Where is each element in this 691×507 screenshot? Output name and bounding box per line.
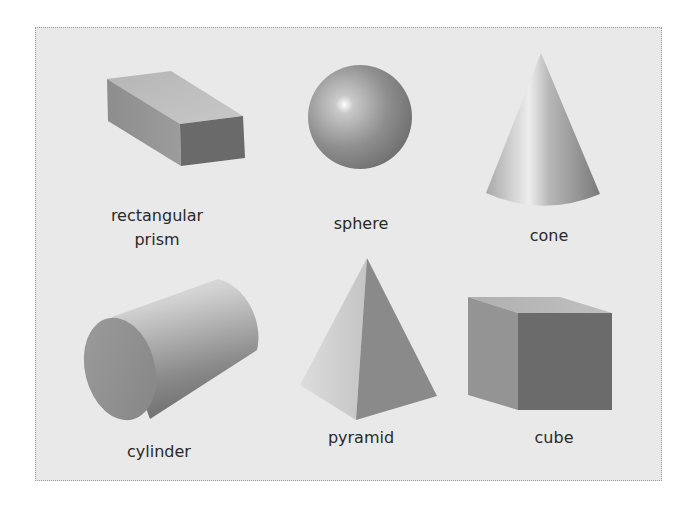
sphere-shape (308, 65, 412, 169)
cube-label: cube (535, 426, 574, 450)
rectangular-prism-shape (107, 71, 245, 166)
pyramid-shape (300, 258, 437, 420)
cone-label: cone (530, 224, 569, 248)
cone-shape (486, 53, 600, 206)
cylinder-shape (73, 279, 258, 428)
sphere-label: sphere (334, 212, 389, 236)
rectangular-prism-label-line2: prism (134, 228, 179, 252)
pyramid-label: pyramid (328, 426, 394, 450)
rectangular-prism-label-line1: rectangular (111, 204, 203, 228)
cylinder-label: cylinder (127, 440, 191, 464)
cube-shape (468, 297, 612, 410)
